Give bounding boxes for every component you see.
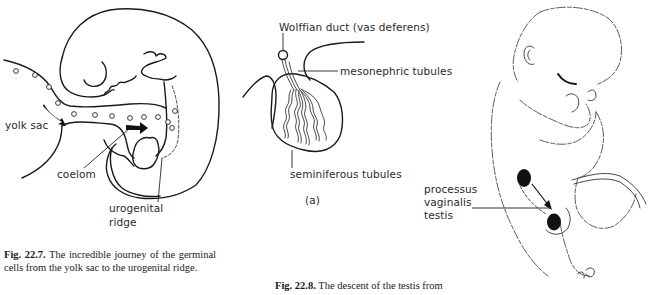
label-yolk-sac: yolk sac: [5, 119, 48, 132]
migration-arrow-icon: [126, 122, 148, 134]
testis-section-illustration: [243, 33, 364, 168]
label-vaginalis: vaginalis: [424, 196, 472, 209]
label-processus: processus: [424, 183, 477, 196]
label-urogenital-line1: urogenital: [109, 202, 163, 215]
caption-text: The descent of the testis from: [318, 280, 443, 291]
label-panel-a: (a): [305, 194, 320, 207]
label-seminiferous-tubules: seminiferous tubules: [290, 168, 402, 181]
label-mesonephric-tubules: mesonephric tubules: [340, 65, 452, 78]
label-testis: testis: [424, 209, 453, 222]
label-urogenital-line2: ridge: [109, 216, 137, 229]
fetus-illustration: [472, 7, 646, 278]
caption-number: Fig. 22.7.: [4, 249, 46, 260]
textbook-page: yolk sac coelom urogenital ridge Fig. 22…: [0, 0, 652, 295]
caption-fig-22-8: Fig. 22.8. The descent of the testis fro…: [275, 280, 515, 293]
label-coelom: coelom: [57, 168, 96, 181]
label-wolffian-duct: Wolffian duct (vas deferens): [279, 21, 430, 34]
embryo-illustration: [4, 9, 219, 202]
caption-fig-22-7: Fig. 22.7. The incredible journey of the…: [4, 249, 216, 275]
caption-number: Fig. 22.8.: [275, 280, 316, 291]
